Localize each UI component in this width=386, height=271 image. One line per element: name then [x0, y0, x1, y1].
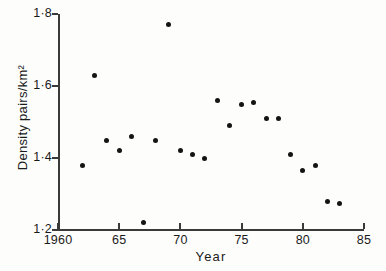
x-axis-title: Year [58, 249, 364, 264]
data-point [251, 100, 256, 105]
data-point [153, 138, 158, 143]
data-point [300, 168, 305, 173]
data-point [239, 102, 244, 107]
data-point [166, 22, 171, 27]
data-point [129, 134, 134, 139]
data-point [190, 152, 195, 157]
data-point [202, 156, 207, 161]
data-point [288, 152, 293, 157]
data-point [227, 123, 232, 128]
data-point [104, 138, 109, 143]
data-point [141, 220, 146, 225]
data-point [264, 116, 269, 121]
data-point [117, 148, 122, 153]
data-point [276, 116, 281, 121]
plot-data-area [0, 0, 386, 271]
scatter-chart-figure: Density pairs/km² 1·21·41·61·8 196065707… [0, 0, 386, 271]
data-point [337, 201, 342, 206]
data-point [313, 163, 318, 168]
data-point [325, 199, 330, 204]
data-point [215, 98, 220, 103]
data-point [178, 148, 183, 153]
data-point [92, 73, 97, 78]
data-point [80, 163, 85, 168]
